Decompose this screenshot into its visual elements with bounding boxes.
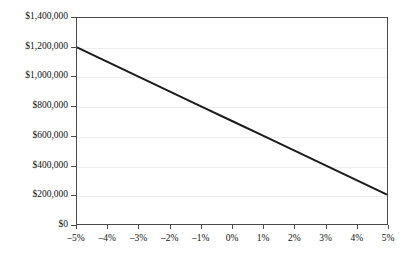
x-axis-tick-mark: [201, 225, 202, 229]
y-axis-tick-label: $800,000: [32, 101, 68, 111]
x-axis-tick-mark: [138, 225, 139, 229]
data-line: [77, 47, 387, 194]
x-axis-tick-mark: [170, 225, 171, 229]
y-axis-tick-label: $1,200,000: [25, 42, 68, 52]
x-axis-tick-mark: [232, 225, 233, 229]
y-axis-tick-label: $1,000,000: [25, 71, 68, 81]
chart-container: $0$200,000$400,000$600,000$800,000$1,000…: [0, 0, 412, 253]
y-axis-tick-label: $0: [59, 220, 69, 230]
x-axis-tick-mark: [107, 225, 108, 229]
y-axis-tick-label: $1,400,000: [25, 12, 68, 22]
data-series-line-chart: [77, 18, 387, 224]
x-axis-tick-mark: [263, 225, 264, 229]
x-axis-tick-mark: [357, 225, 358, 229]
x-axis-tick-label: 5%: [368, 234, 408, 244]
y-axis-tick-label: $200,000: [32, 190, 68, 200]
y-axis-tick-label: $400,000: [32, 161, 68, 171]
plot-area: [76, 17, 388, 225]
x-axis-tick-mark: [326, 225, 327, 229]
x-axis-tick-mark: [294, 225, 295, 229]
x-axis-tick-mark: [388, 225, 389, 229]
y-axis-tick-label: $600,000: [32, 131, 68, 141]
x-axis-tick-mark: [76, 225, 77, 229]
